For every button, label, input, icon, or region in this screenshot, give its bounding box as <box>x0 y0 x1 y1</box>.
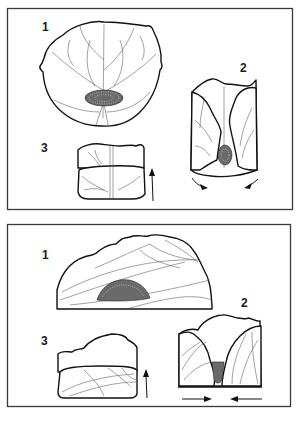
arrow-head <box>204 396 212 402</box>
arrow-head <box>149 168 155 176</box>
top-panel: 1 2 <box>8 9 293 210</box>
bottom-step-1: 1 <box>42 235 212 309</box>
arrow-head <box>200 184 208 190</box>
step-label: 2 <box>240 61 247 75</box>
step-label: 2 <box>241 296 248 310</box>
arrow-up <box>152 174 153 201</box>
arrow-head <box>230 396 238 402</box>
arrow-head <box>143 369 149 377</box>
bottom-step-2: 2 <box>178 296 262 402</box>
top-step-3: 3 <box>41 141 155 201</box>
step-label: 3 <box>41 334 48 348</box>
filling <box>212 362 224 383</box>
bottom-panel: 1 2 <box>8 225 291 407</box>
roll-body <box>58 366 137 398</box>
filling <box>85 90 123 106</box>
roll-top-outline <box>78 144 144 168</box>
arrow-up <box>146 376 147 398</box>
bottom-step-3: 3 <box>41 334 149 398</box>
step-label: 3 <box>41 141 48 155</box>
top-step-2: 2 <box>191 61 258 190</box>
step-label: 1 <box>42 248 49 262</box>
step-label: 1 <box>42 20 49 34</box>
cabbage-roll-diagram: 1 2 <box>0 0 302 422</box>
top-step-1: 1 <box>40 20 162 126</box>
arrow-head <box>244 183 252 189</box>
filling <box>218 145 232 165</box>
roll-body <box>78 166 145 199</box>
